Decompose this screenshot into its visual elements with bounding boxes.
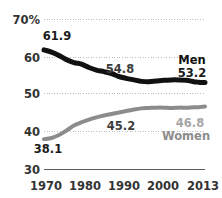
x-tick-2000: 2000	[147, 179, 179, 193]
data-label-women-start: 38.1	[34, 142, 62, 156]
data-label-women-mid: 45.2	[107, 119, 135, 133]
series-label-men: Men	[178, 53, 205, 67]
x-tick-1970: 1970	[30, 179, 62, 193]
x-tick-1980: 1980	[69, 179, 101, 193]
y-tick-70: 70%	[12, 13, 40, 27]
data-label-men-start: 61.9	[43, 29, 71, 43]
y-tick-50: 50	[24, 87, 40, 101]
y-tick-60: 60	[24, 51, 40, 65]
x-axis-labels: 1970 1980 1990 2000 2013	[30, 179, 219, 193]
chart-canvas: 70% 60 50 40 30 1970 1980 1990 2000 2013…	[0, 0, 222, 198]
line-chart: 70% 60 50 40 30 1970 1980 1990 2000 2013…	[0, 0, 222, 198]
series-label-women: Women	[162, 129, 210, 143]
data-label-men-mid: 54.8	[106, 62, 134, 76]
x-tick-1990: 1990	[108, 179, 140, 193]
x-tick-2013: 2013	[187, 179, 219, 193]
y-tick-30: 30	[24, 163, 40, 177]
data-label-women-end: 46.8	[176, 116, 204, 130]
data-label-men-end: 53.2	[178, 66, 206, 80]
y-tick-40: 40	[24, 125, 40, 139]
